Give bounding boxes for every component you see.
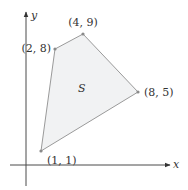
- vertex-point: [53, 47, 56, 50]
- vertex-point: [39, 149, 42, 152]
- vertex-label: (1, 1): [47, 154, 77, 167]
- diagram-canvas: x y S (1, 1)(2, 8)(4, 9)(8, 5): [0, 0, 188, 190]
- region-s: [41, 34, 138, 151]
- x-axis-label: x: [173, 158, 180, 171]
- vertex-point: [81, 32, 84, 35]
- vertex-label: (8, 5): [144, 86, 174, 99]
- vertex-label: (2, 8): [21, 42, 51, 55]
- region-label: S: [78, 82, 86, 95]
- vertex-point: [136, 90, 139, 93]
- y-axis-label: y: [30, 9, 38, 22]
- vertex-label: (4, 9): [68, 16, 98, 29]
